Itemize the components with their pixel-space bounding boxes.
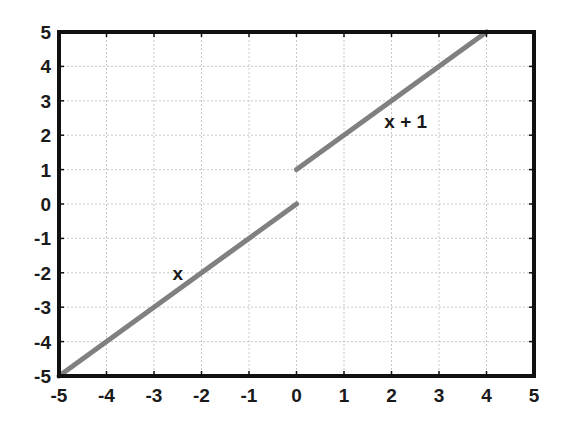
x-tick-label: 0 bbox=[291, 385, 302, 406]
y-tick-label: 1 bbox=[40, 160, 51, 181]
x-tick-label: -2 bbox=[193, 385, 210, 406]
y-tick-label: -3 bbox=[34, 297, 51, 318]
series-label: x + 1 bbox=[384, 111, 427, 132]
y-tick-label: 4 bbox=[40, 56, 51, 77]
y-tick-label: 5 bbox=[40, 22, 51, 43]
x-tick-label: 2 bbox=[386, 385, 397, 406]
y-tick-label: -4 bbox=[34, 332, 51, 353]
y-tick-label: 0 bbox=[40, 194, 51, 215]
series-line bbox=[59, 204, 297, 376]
x-axis-tick-labels: -5-4-3-2-1012345 bbox=[51, 385, 540, 406]
y-tick-label: 2 bbox=[40, 125, 51, 146]
x-tick-label: -5 bbox=[51, 385, 68, 406]
x-tick-label: -4 bbox=[98, 385, 115, 406]
y-tick-label: -2 bbox=[34, 263, 51, 284]
x-tick-label: -3 bbox=[146, 385, 163, 406]
y-tick-label: 3 bbox=[40, 91, 51, 112]
series-label: x bbox=[172, 263, 183, 284]
x-tick-label: 5 bbox=[529, 385, 540, 406]
series-annotations: xx + 1 bbox=[172, 111, 427, 283]
y-tick-label: -5 bbox=[34, 366, 51, 387]
y-tick-label: -1 bbox=[34, 228, 51, 249]
x-tick-label: 3 bbox=[434, 385, 445, 406]
y-axis-tick-labels: -5-4-3-2-1012345 bbox=[34, 22, 51, 387]
x-tick-label: 1 bbox=[339, 385, 350, 406]
piecewise-line-chart: -5-4-3-2-1012345 -5-4-3-2-1012345 xx + 1 bbox=[0, 0, 567, 433]
x-tick-label: 4 bbox=[481, 385, 492, 406]
x-tick-label: -1 bbox=[241, 385, 258, 406]
